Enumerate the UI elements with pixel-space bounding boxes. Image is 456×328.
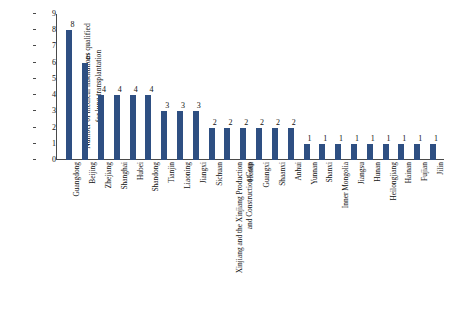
y-tick-mark	[33, 127, 36, 128]
x-axis-label: Guangdong	[72, 162, 82, 312]
x-axis-label: Sichuan	[215, 162, 225, 312]
y-tick-label: 0	[36, 155, 56, 165]
y-tick-mark	[33, 45, 36, 46]
y-tick-label: 3	[36, 106, 56, 116]
x-axis-label: Jilin	[436, 162, 446, 312]
y-tick-mark	[33, 159, 36, 160]
y-tick-label: 2	[36, 123, 56, 133]
bar-series: 864444333222222111111111	[56, 14, 444, 160]
y-tick-mark	[33, 110, 36, 111]
x-axis-label: Shaanxi	[278, 162, 288, 312]
bar	[351, 144, 357, 160]
bar	[98, 95, 104, 160]
bar	[161, 111, 167, 160]
bar	[114, 95, 120, 160]
bar	[288, 128, 294, 160]
x-axis-label: Shanxi	[325, 162, 335, 312]
bar	[383, 144, 389, 160]
bar-value-label: 3	[189, 101, 209, 110]
x-axis-label: Anhui	[294, 162, 304, 312]
y-tick-mark	[33, 62, 36, 63]
bar-value-label: 6	[78, 53, 98, 62]
y-tick-label: 9	[36, 9, 56, 19]
bar-value-label: 8	[62, 20, 82, 29]
x-axis-label: Inner Mongolia	[341, 162, 351, 312]
bar	[224, 128, 230, 160]
x-axis-label: Hunan	[373, 162, 383, 312]
x-axis-label: Hainan	[404, 162, 414, 312]
x-axis-label: Tianjin	[167, 162, 177, 312]
y-tick-mark	[33, 78, 36, 79]
x-axis-labels: GuangdongBeijingZhejiangShanghaiHubeiSha…	[56, 162, 444, 322]
y-tick-mark	[33, 143, 36, 144]
y-tick-label: 8	[36, 25, 56, 35]
bar	[130, 95, 136, 160]
bar	[66, 30, 72, 160]
bar-value-label: 2	[284, 118, 304, 127]
bar	[272, 128, 278, 160]
bar	[145, 95, 151, 160]
bar	[430, 144, 436, 160]
y-tick-label: 1	[36, 139, 56, 149]
y-tick-label: 4	[36, 90, 56, 100]
x-axis-label: Jiangsu	[357, 162, 367, 312]
y-tick-label: 5	[36, 74, 56, 84]
bar	[398, 144, 404, 160]
x-axis-label: Fujian	[420, 162, 430, 312]
bar-chart: Number of medical institutions qualified…	[0, 0, 456, 328]
plot-area: 0123456789 864444333222222111111111	[56, 14, 444, 160]
y-tick-label: 6	[36, 58, 56, 68]
x-axis-label: Hubei	[136, 162, 146, 312]
bar	[304, 144, 310, 160]
x-axis-label: Jiangxi	[199, 162, 209, 312]
x-axis-label: Liaoning	[183, 162, 193, 312]
bar	[335, 144, 341, 160]
y-axis-title: Number of medical institutions qualified…	[0, 0, 34, 172]
y-tick-mark	[33, 94, 36, 95]
bar	[414, 144, 420, 160]
x-axis-label: Henan	[246, 162, 256, 312]
y-tick-label: 7	[36, 41, 56, 51]
bar	[367, 144, 373, 160]
bar	[240, 128, 246, 160]
x-axis-label: Shanghai	[120, 162, 130, 312]
bar-value-label: 4	[141, 85, 161, 94]
x-axis-label: Yunnan	[310, 162, 320, 312]
x-axis-label: Beijing	[88, 162, 98, 312]
x-axis-label: Shandong	[151, 162, 161, 312]
bar-value-label: 1	[426, 134, 446, 143]
x-axis-label: Heilongjiang	[389, 162, 399, 312]
bar	[177, 111, 183, 160]
bar	[82, 63, 88, 160]
x-axis-label: Guangxi	[262, 162, 272, 312]
y-tick-mark	[33, 29, 36, 30]
x-axis-label-line: Xinjiang and the Xinjiang Production	[235, 162, 245, 312]
x-axis-label: Zhejiang	[104, 162, 114, 312]
bar	[193, 111, 199, 160]
y-tick-mark	[33, 13, 36, 14]
bar	[319, 144, 325, 160]
bar	[256, 128, 262, 160]
bar	[209, 128, 215, 160]
